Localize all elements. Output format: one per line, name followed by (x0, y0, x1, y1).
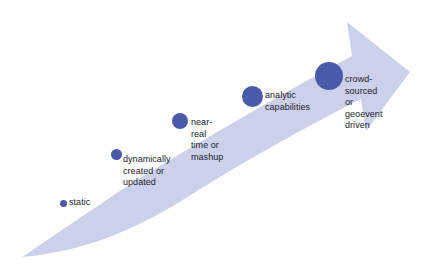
node-label-dynamically-created-or-updated: dynamically created or updated (123, 154, 171, 189)
node-dot-crowd-sourced-or-geoevent-driven (315, 62, 343, 90)
node-label-near-real-time-or-mashup: near-real time or mashup (191, 117, 223, 163)
node-dot-near-real-time-or-mashup (172, 113, 188, 129)
progression-arrow-diagram: static dynamically created or updated ne… (0, 0, 428, 264)
node-label-analytic-capabilities: analytic capabilities (265, 90, 310, 113)
node-dot-static (60, 200, 67, 207)
node-dot-dynamically-created-or-updated (111, 149, 122, 160)
node-dot-analytic-capabilities (242, 86, 263, 107)
node-label-static: static (69, 197, 90, 209)
node-label-crowd-sourced-or-geoevent-driven: crowd- sourced or geoevent driven (345, 74, 382, 132)
